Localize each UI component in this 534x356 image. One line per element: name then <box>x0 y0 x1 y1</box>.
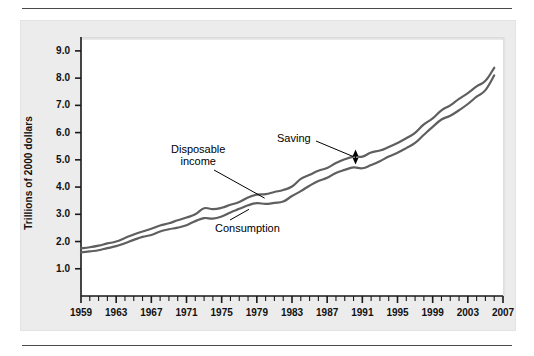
figure-root: Trillions of 2000 dollars 9.08.07.06.05.… <box>0 0 534 356</box>
annotation-saving: Saving <box>277 132 311 144</box>
annotation-disposable-income-line2: income <box>171 155 225 167</box>
chart-canvas <box>0 0 534 356</box>
leader-line-saving <box>316 141 354 157</box>
annotation-leaders-group <box>214 141 356 220</box>
leader-line-disposable-income <box>214 170 265 198</box>
series-line-consumption <box>81 75 494 252</box>
bottom-divider-rule <box>22 345 512 346</box>
axes-group <box>75 37 503 303</box>
series-line-disposable-income <box>81 68 494 249</box>
annotation-disposable-income-line1: Disposable <box>171 143 225 155</box>
data-series-group <box>81 68 494 253</box>
annotation-disposable-income: Disposable income <box>171 143 225 167</box>
annotation-consumption: Consumption <box>215 222 280 234</box>
